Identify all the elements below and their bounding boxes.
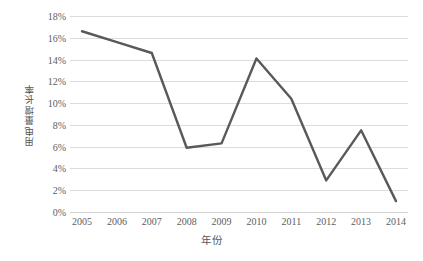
y-axis-tick-label: 6% (53, 141, 66, 152)
x-axis-tick-label: 2005 (72, 216, 92, 227)
y-axis-tick-label: 0% (53, 207, 66, 218)
y-axis-tick-label: 2% (53, 185, 66, 196)
y-axis-tick-label: 8% (53, 119, 66, 130)
plot-area (70, 16, 408, 212)
y-axis-tick-label: 14% (48, 54, 66, 65)
x-axis-tick-label: 2006 (107, 216, 127, 227)
y-axis-tick-labels: 0%2%4%6%8%10%12%14%16%18% (36, 16, 66, 212)
y-axis-tick-label: 12% (48, 76, 66, 87)
x-axis-title: 年份 (0, 232, 423, 247)
x-axis-tick-label: 2008 (177, 216, 197, 227)
line-chart: 用电量增长率 0%2%4%6%8%10%12%14%16%18% 2005200… (0, 0, 423, 261)
x-axis-tick-label: 2013 (351, 216, 371, 227)
y-axis-tick-label: 18% (48, 11, 66, 22)
gridline (70, 212, 408, 213)
y-axis-tick-label: 4% (53, 163, 66, 174)
y-axis-tick-label: 16% (48, 32, 66, 43)
x-axis-tick-label: 2011 (282, 216, 302, 227)
x-axis-tick-label: 2012 (316, 216, 336, 227)
x-axis-tick-label: 2010 (246, 216, 266, 227)
x-axis-tick-label: 2009 (212, 216, 232, 227)
x-axis-tick-label: 2014 (386, 216, 406, 227)
x-axis-tick-labels: 2005200620072008200920102011201220132014 (70, 216, 408, 232)
series-line-growth-rate (82, 31, 396, 201)
x-axis-tick-label: 2007 (142, 216, 162, 227)
y-axis-tick-label: 10% (48, 98, 66, 109)
series-line-layer (70, 16, 408, 212)
